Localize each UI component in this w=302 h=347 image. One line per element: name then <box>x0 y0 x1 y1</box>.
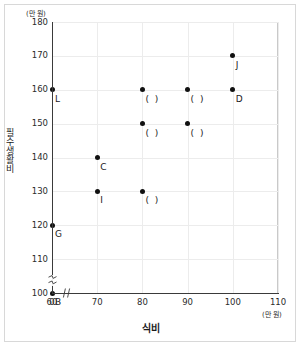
x-axis-title: 식비 <box>0 320 302 335</box>
data-point <box>140 87 145 92</box>
x-axis-tick-label: 90 <box>174 298 202 307</box>
y-axis-tick-label: 130 <box>18 187 48 196</box>
x-axis-tick-label: 70 <box>83 298 111 307</box>
data-point <box>230 53 235 58</box>
y-axis-tick-labels: 100110120130140150160170180 <box>14 0 48 347</box>
y-axis-tick-label: 110 <box>18 255 48 264</box>
y-axis-tick-label: 150 <box>18 119 48 128</box>
data-point-label: ( ) <box>145 128 159 138</box>
data-point-label: ( ) <box>145 94 159 104</box>
data-point <box>95 189 100 194</box>
data-point-label: L <box>55 94 60 104</box>
data-point-label: G <box>55 229 62 239</box>
y-axis-break-icon <box>47 274 58 287</box>
y-axis-line-lower <box>52 286 53 293</box>
data-point <box>95 155 100 160</box>
y-axis-tick-label: 140 <box>18 153 48 162</box>
data-point <box>185 87 190 92</box>
gridline-horizontal <box>52 259 278 260</box>
x-axis-line <box>52 293 279 294</box>
y-axis-tick-label: 180 <box>18 18 48 27</box>
gridline-horizontal <box>52 225 278 226</box>
scatter-chart: (만 원) 필수생활비 BGLIC( )( )( )( )( )DJ 10011… <box>0 0 302 347</box>
x-axis-tick-label: 100 <box>219 298 247 307</box>
data-point <box>230 87 235 92</box>
data-point-label: ( ) <box>191 94 205 104</box>
y-axis-tick-label: 100 <box>18 289 48 298</box>
gridline-horizontal <box>52 22 278 23</box>
data-point <box>185 121 190 126</box>
data-point <box>140 121 145 126</box>
data-point-label: C <box>100 162 106 172</box>
y-axis-line <box>52 22 53 275</box>
x-axis-origin-label: 0 <box>38 298 66 307</box>
gridline-horizontal <box>52 191 278 192</box>
x-axis-unit-label: (만 원) <box>262 309 282 319</box>
x-axis-tick-label: 80 <box>128 298 156 307</box>
data-point-label: ( ) <box>191 128 205 138</box>
gridline-vertical <box>278 22 279 293</box>
y-axis-tick-label: 160 <box>18 85 48 94</box>
plot-area: BGLIC( )( )( )( )( )DJ <box>52 22 278 293</box>
data-point-label: J <box>236 60 239 70</box>
data-point <box>140 189 145 194</box>
data-point-label: I <box>100 195 103 205</box>
gridline-horizontal <box>52 90 278 91</box>
gridline-horizontal <box>52 158 278 159</box>
data-point-label: ( ) <box>145 195 159 205</box>
gridline-horizontal <box>52 124 278 125</box>
x-axis-tick-labels: 607080901001100 <box>0 298 302 312</box>
y-axis-tick-label: 120 <box>18 221 48 230</box>
gridline-horizontal <box>52 56 278 57</box>
x-axis-tick-label: 110 <box>264 298 292 307</box>
y-axis-tick-label: 170 <box>18 51 48 60</box>
data-point-label: D <box>236 94 243 104</box>
